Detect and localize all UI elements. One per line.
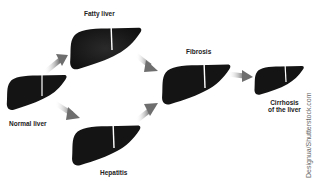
- liver-progression-diagram: Fatty liver Normal liver Hepatitis Fibro…: [0, 0, 319, 182]
- label-hepatitis: Hepatitis: [100, 169, 127, 176]
- label-cirrhosis-line2: of the liver: [268, 106, 301, 113]
- arrow-normal-to-hepatitis: [55, 103, 80, 120]
- arrow-fatty-to-fibrosis: [136, 55, 158, 72]
- liver-fatty: [70, 23, 141, 69]
- diagram-canvas: [0, 0, 319, 182]
- label-normal-liver: Normal liver: [9, 120, 47, 127]
- arrow-normal-to-fatty: [44, 54, 68, 73]
- arrow-fibrosis-to-cirrhosis: [228, 70, 253, 82]
- label-cirrhosis-line1: Cirrhosis: [268, 99, 301, 106]
- label-fatty-liver: Fatty liver: [84, 10, 115, 17]
- liver-fibrosis: [162, 61, 230, 104]
- arrow-hepatitis-to-fibrosis: [136, 103, 158, 121]
- image-credit: Designua/Shutterstock.com: [305, 92, 312, 178]
- label-cirrhosis: Cirrhosis of the liver: [268, 99, 301, 113]
- label-fibrosis: Fibrosis: [186, 48, 211, 55]
- liver-hepatitis: [72, 121, 140, 165]
- liver-cirrhosis: [254, 63, 303, 95]
